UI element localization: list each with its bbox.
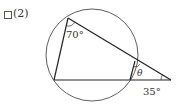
angle-label-A: 70° (66, 29, 84, 40)
angle-arc-A (66, 22, 75, 26)
angle-label-theta: θ (137, 68, 143, 78)
secant-AP (68, 18, 171, 80)
segment-AB (54, 18, 68, 80)
angle-label-P: 35° (143, 86, 161, 97)
angle-arc-P (161, 75, 162, 80)
geometry-figure: 70° θ 35° (0, 0, 179, 107)
